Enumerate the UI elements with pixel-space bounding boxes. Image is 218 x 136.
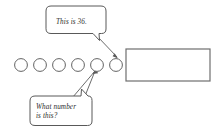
what-number-is-this-bubble[interactable]: What number is this?	[30, 89, 92, 126]
circle-2[interactable]	[34, 59, 47, 72]
this-is-36-bubble[interactable]: This is 36.	[46, 6, 106, 41]
circle-row	[15, 59, 123, 72]
answer-box-rect[interactable]	[126, 49, 210, 81]
statement-pointer-line	[97, 36, 117, 57]
circle-5[interactable]	[91, 59, 104, 72]
circle-6[interactable]	[110, 59, 123, 72]
statement-pointer	[97, 36, 118, 59]
statement-arrow-head	[113, 53, 118, 58]
circle-4[interactable]	[72, 59, 85, 72]
statement-bubble-text: This is 36.	[56, 18, 87, 26]
question-bubble-line-2: is this?	[36, 112, 58, 120]
answer-box[interactable]	[126, 49, 210, 81]
diagram-svg: This is 36. What number is this?	[0, 0, 218, 136]
worksheet-canvas: This is 36. What number is this?	[0, 0, 218, 136]
circle-3[interactable]	[53, 59, 66, 72]
circle-1[interactable]	[15, 59, 28, 72]
question-bubble-line-1: What number	[36, 103, 76, 111]
